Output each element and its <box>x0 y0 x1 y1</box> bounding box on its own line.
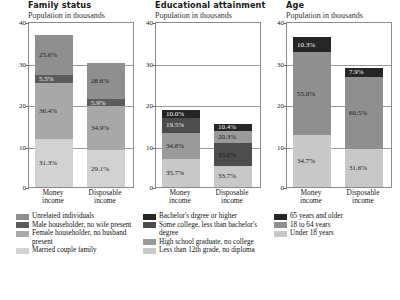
legend-label: 65 years and older <box>290 212 343 220</box>
y-axis-tick-label: 30 <box>277 61 284 69</box>
chart-page: Family statusPopulation in thousands0102… <box>0 0 400 300</box>
legend-swatch-icon <box>274 214 287 220</box>
bar-segment[interactable]: 20.3% <box>214 131 252 144</box>
y-axis-tick-label: 30 <box>19 61 26 69</box>
bar-segment[interactable]: 34.8% <box>162 133 200 160</box>
stacked-bar[interactable]: 29.1%34.9%5.9%28.6% <box>87 61 125 187</box>
bar-segment[interactable]: 10.0% <box>162 110 200 118</box>
x-axis-labels: MoneyincomeDisposableincome <box>286 188 392 208</box>
legend-item[interactable]: Some college, less than bachelor's degre… <box>143 221 265 237</box>
legend-swatch-icon <box>16 214 29 220</box>
bars-layer: 35.7%34.8%19.5%10.0%33.7%35.6%20.3%10.4% <box>156 23 260 187</box>
bar-segment-value: 19.5% <box>166 121 184 129</box>
x-axis-label-2: Disposableincome <box>76 189 134 206</box>
bar-segment-value: 34.9% <box>91 124 109 132</box>
chart-panel-1: Family statusPopulation in thousands0102… <box>0 0 133 255</box>
bar-segment[interactable]: 5.5% <box>35 75 73 83</box>
legend-item[interactable]: Female householder, no husband present <box>16 229 138 245</box>
panel-subtitle: Population in thousands <box>286 11 399 20</box>
bar-segment-value: 35.6% <box>218 151 236 159</box>
legend-swatch-icon <box>274 231 287 237</box>
legend-swatch-icon <box>143 214 156 220</box>
legend-swatch-icon <box>143 239 156 245</box>
legend-swatch-icon <box>274 222 287 228</box>
x-axis-label-line: income <box>334 197 392 205</box>
y-axis-tick-label: 20 <box>19 102 26 110</box>
bar-segment[interactable]: 19.5% <box>162 118 200 133</box>
legend-item[interactable]: Married couple family <box>16 246 138 254</box>
legend-swatch-icon <box>143 248 156 254</box>
stacked-bar[interactable]: 31.3%36.4%5.5%25.6% <box>35 33 73 187</box>
bar-segment[interactable]: 55.0% <box>293 52 331 135</box>
bar-segment-value: 60.5% <box>349 109 367 117</box>
x-axis-label-line: income <box>203 197 261 205</box>
legend-label: Unrelated individuals <box>32 212 94 220</box>
legend-item[interactable]: 65 years and older <box>274 212 396 220</box>
stacked-bar[interactable]: 35.7%34.8%19.5%10.0% <box>162 110 200 187</box>
legend-label: Under 18 years <box>290 229 334 237</box>
plot-area: 01020304031.3%36.4%5.5%25.6%29.1%34.9%5.… <box>28 22 134 188</box>
y-axis-tick-label: 10 <box>19 144 26 152</box>
legend-swatch-icon <box>143 222 156 228</box>
bar-segment[interactable]: 25.6% <box>35 35 73 74</box>
legend-label: Bachelor's drgree or higher <box>159 212 237 220</box>
panel-title: Educational attainment <box>155 0 266 10</box>
bar-segment[interactable]: 33.7% <box>214 166 252 187</box>
x-axis-label-line: income <box>282 197 340 205</box>
panel-subtitle: Population in thousands <box>28 11 133 20</box>
bar-segment[interactable]: 34.9% <box>87 106 125 150</box>
x-axis-label-2: Disposableincome <box>203 189 261 206</box>
bar-segment[interactable]: 5.9% <box>87 99 125 106</box>
bar-segment[interactable]: 60.5% <box>345 77 383 149</box>
bar-segment[interactable]: 36.4% <box>35 83 73 139</box>
x-axis-labels: MoneyincomeDisposableincome <box>28 188 134 208</box>
bar-segment[interactable]: 10.3% <box>293 37 331 52</box>
bars-layer: 34.7%55.0%10.3%31.6%60.5%7.9% <box>287 23 391 187</box>
x-axis-label-line: income <box>24 197 82 205</box>
y-axis-tick-label: 20 <box>146 102 153 110</box>
legend-item[interactable]: High school graduate, no college <box>143 238 265 246</box>
bar-segment-value: 20.3% <box>218 133 236 141</box>
bar-segment-value: 35.7% <box>166 169 184 177</box>
bar-segment[interactable]: 31.6% <box>345 149 383 187</box>
bar-segment-value: 29.1% <box>91 165 109 173</box>
y-axis-tick-label: 10 <box>277 144 284 152</box>
stacked-bar[interactable]: 34.7%55.0%10.3% <box>293 37 331 187</box>
bar-segment-value: 55.0% <box>297 90 315 98</box>
legend-label: Female householder, no husband present <box>32 229 138 245</box>
bar-segment-value: 33.7% <box>218 172 236 180</box>
plot-frame: 01020304035.7%34.8%19.5%10.0%33.7%35.6%2… <box>155 22 261 188</box>
bar-segment-value: 34.8% <box>166 142 184 150</box>
bar-segment[interactable]: 31.3% <box>35 139 73 187</box>
bar-segment[interactable]: 7.9% <box>345 68 383 77</box>
legend-swatch-icon <box>16 248 29 254</box>
bar-segment-value: 5.5% <box>39 75 54 83</box>
chart-panel-2: Educational attainmentPopulation in thou… <box>133 0 266 255</box>
legend-label: Some college, less than bachelor's degre… <box>159 221 265 237</box>
panel-row: Family statusPopulation in thousands0102… <box>0 0 400 255</box>
bar-segment[interactable]: 35.6% <box>214 143 252 165</box>
bar-segment[interactable]: 28.6% <box>87 63 125 99</box>
legend-item[interactable]: Unrelated individuals <box>16 212 138 220</box>
bar-segment-value: 28.6% <box>91 77 109 85</box>
legend-label: Male householder, no wife present <box>32 221 131 229</box>
bar-segment[interactable]: 35.7% <box>162 159 200 187</box>
legend-item[interactable]: Male householder, no wife present <box>16 221 138 229</box>
bar-segment-value: 31.3% <box>39 159 57 167</box>
y-axis-tick-label: 40 <box>19 19 26 27</box>
legend-item[interactable]: 18 to 64 years <box>274 221 396 229</box>
stacked-bar[interactable]: 33.7%35.6%20.3%10.4% <box>214 124 252 187</box>
legend-item[interactable]: Bachelor's drgree or higher <box>143 212 265 220</box>
stacked-bar[interactable]: 31.6%60.5%7.9% <box>345 67 383 187</box>
bar-segment[interactable]: 34.7% <box>293 135 331 187</box>
legend-item[interactable]: Under 18 years <box>274 229 396 237</box>
legend-item[interactable]: Less than 12th grade, no diploma <box>143 246 265 254</box>
plot-frame: 01020304034.7%55.0%10.3%31.6%60.5%7.9% <box>286 22 392 188</box>
plot-area: 01020304035.7%34.8%19.5%10.0%33.7%35.6%2… <box>155 22 261 188</box>
bar-segment[interactable]: 10.4% <box>214 124 252 131</box>
bar-segment-value: 36.4% <box>39 107 57 115</box>
panel-subtitle: Population in thousands <box>155 11 266 20</box>
bars-layer: 31.3%36.4%5.5%25.6%29.1%34.9%5.9%28.6% <box>29 23 133 187</box>
bar-segment[interactable]: 29.1% <box>87 150 125 187</box>
y-axis-tick-label: 40 <box>277 19 284 27</box>
